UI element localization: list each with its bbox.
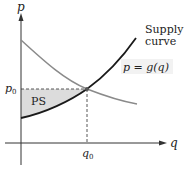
- producer-surplus-diagram: p q p0 q0 PS Supply curve p = g(q): [0, 0, 186, 170]
- q-axis-label: q: [170, 136, 178, 150]
- producer-surplus-label: PS: [31, 95, 46, 108]
- q-axis-arrow-icon: [159, 141, 167, 146]
- q0-label: q0: [82, 147, 94, 161]
- equilibrium-point: [85, 87, 89, 91]
- p-axis-arrow-icon: [19, 13, 24, 21]
- p0-label: p0: [5, 82, 17, 96]
- supply-curve-label-line2: curve: [145, 35, 176, 48]
- p-axis-label: p: [17, 0, 25, 14]
- demand-equation-label: p = g(q): [123, 61, 169, 74]
